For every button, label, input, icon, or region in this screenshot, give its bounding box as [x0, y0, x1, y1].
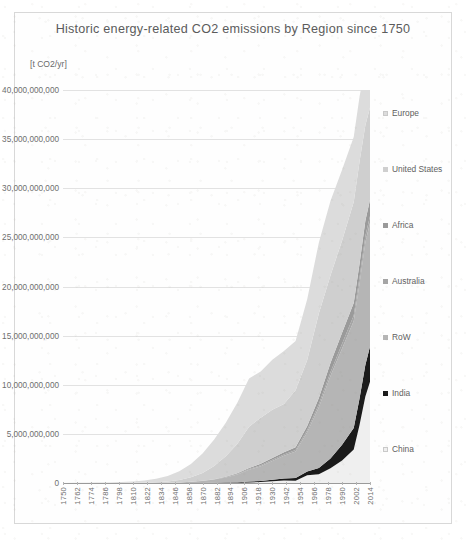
x-tick-label: 1942	[282, 487, 291, 505]
x-tick-label: 1858	[185, 487, 194, 505]
x-tick-mark	[328, 482, 329, 485]
x-tick-label: 1870	[199, 487, 208, 505]
legend-item-europe[interactable]: Europe	[383, 108, 419, 119]
y-axis-unit-label: [t CO2/yr]	[30, 59, 67, 69]
x-tick-label: 1990	[338, 487, 347, 505]
x-tick-label: 1822	[143, 487, 152, 505]
y-tick-label: 15,000,000,000	[2, 331, 59, 340]
legend-swatch-icon	[383, 111, 388, 116]
x-tick-mark	[286, 482, 287, 485]
x-tick-mark	[189, 482, 190, 485]
chart-legend: EuropeUnited StatesAfricaAustraliaRoWInd…	[383, 90, 449, 490]
legend-swatch-icon	[383, 167, 388, 172]
x-tick-mark	[342, 482, 343, 485]
x-tick-label: 1954	[296, 487, 305, 505]
x-tick-mark	[300, 482, 301, 485]
y-tick-label: 35,000,000,000	[2, 135, 59, 144]
x-tick-mark	[161, 482, 162, 485]
legend-item-row[interactable]: RoW	[383, 332, 411, 343]
legend-label: Europe	[392, 108, 419, 119]
x-tick-label: 1762	[73, 487, 82, 505]
x-tick-mark	[314, 482, 315, 485]
y-tick-label: 10,000,000,000	[2, 380, 59, 389]
legend-swatch-icon	[383, 391, 388, 396]
x-tick-label: 1930	[268, 487, 277, 505]
x-tick-mark	[356, 482, 357, 485]
x-tick-label: 1798	[115, 487, 124, 505]
x-tick-label: 1750	[59, 487, 68, 505]
x-tick-mark	[133, 482, 134, 485]
x-tick-label: 1786	[101, 487, 110, 505]
legend-swatch-icon	[383, 223, 388, 228]
x-tick-mark	[230, 482, 231, 485]
legend-item-united-states[interactable]: United States	[383, 164, 442, 175]
x-tick-label: 1978	[324, 487, 333, 505]
legend-item-india[interactable]: India	[383, 388, 410, 399]
x-tick-label: 1966	[310, 487, 319, 505]
legend-item-australia[interactable]: Australia	[383, 276, 425, 287]
x-tick-label: 1774	[87, 487, 96, 505]
legend-swatch-icon	[383, 447, 388, 452]
x-tick-mark	[105, 482, 106, 485]
x-tick-mark	[77, 482, 78, 485]
x-tick-label: 1894	[226, 487, 235, 505]
x-tick-mark	[244, 482, 245, 485]
legend-label: RoW	[392, 332, 411, 343]
y-tick-label: 40,000,000,000	[2, 86, 59, 95]
plot-area	[63, 90, 370, 483]
x-tick-label: 1918	[254, 487, 263, 505]
x-tick-mark	[175, 482, 176, 485]
x-tick-mark	[63, 482, 64, 485]
y-tick-label: 30,000,000,000	[2, 184, 59, 193]
x-tick-label: 1834	[157, 487, 166, 505]
y-tick-label: 5,000,000,000	[7, 429, 59, 438]
x-tick-mark	[203, 482, 204, 485]
x-tick-mark	[370, 482, 371, 485]
legend-label: Africa	[392, 220, 413, 231]
x-tick-mark	[217, 482, 218, 485]
x-tick-label: 1846	[171, 487, 180, 505]
x-tick-label: 2014	[366, 487, 375, 505]
x-tick-label: 2002	[352, 487, 361, 505]
legend-swatch-icon	[383, 279, 388, 284]
legend-label: United States	[392, 164, 442, 175]
stacked-area-series	[63, 90, 370, 483]
legend-item-china[interactable]: China	[383, 444, 414, 455]
legend-label: Australia	[392, 276, 425, 287]
x-tick-mark	[119, 482, 120, 485]
legend-swatch-icon	[383, 335, 388, 340]
legend-item-africa[interactable]: Africa	[383, 220, 413, 231]
x-tick-label: 1882	[213, 487, 222, 505]
y-tick-label: 20,000,000,000	[2, 282, 59, 291]
y-axis-tick-labels: 05,000,000,00010,000,000,00015,000,000,0…	[0, 90, 59, 483]
y-tick-label: 25,000,000,000	[2, 233, 59, 242]
x-axis-tick-labels: 1750176217741786179818101822183418461858…	[63, 485, 371, 525]
x-tick-label: 1810	[129, 487, 138, 505]
legend-label: China	[392, 444, 414, 455]
legend-label: India	[392, 388, 410, 399]
x-tick-mark	[272, 482, 273, 485]
chart-title: Historic energy-related CO2 emissions by…	[14, 22, 452, 36]
x-tick-mark	[147, 482, 148, 485]
x-tick-mark	[258, 482, 259, 485]
x-tick-label: 1906	[240, 487, 249, 505]
x-tick-mark	[91, 482, 92, 485]
